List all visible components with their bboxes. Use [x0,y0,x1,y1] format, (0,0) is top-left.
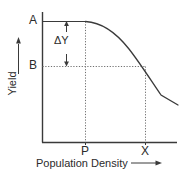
density-p-label: P [81,145,89,157]
level-a-label: A [29,14,37,26]
x-label-arrow-head [156,161,163,166]
delta-y-arrow-down-head [64,62,69,67]
y-axis-label: Yield [7,62,18,106]
x-axis-label: Population Density [36,158,128,169]
density-x-label: X [141,145,149,157]
yield-population-density-figure: A B P X ΔY Yield Population Density [0,0,182,174]
delta-y-label: ΔY [54,35,69,46]
yield-curve [86,22,179,106]
plot-canvas [0,0,182,174]
level-b-label: B [29,59,37,71]
y-axis-arrow-head [16,37,21,44]
